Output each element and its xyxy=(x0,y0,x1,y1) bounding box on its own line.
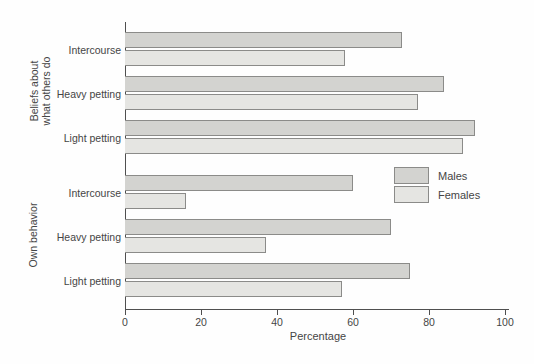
bar-males-beliefs-about-what-others-do-heavy-petting xyxy=(125,76,444,92)
category-label-beliefs-about-what-others-do-intercourse: Intercourse xyxy=(11,43,121,57)
x-tick-80 xyxy=(429,309,430,315)
bar-females-own-behavior-intercourse xyxy=(125,193,186,209)
legend-row-males: Males xyxy=(394,166,480,185)
x-tick-label-40: 40 xyxy=(257,316,297,328)
bar-males-own-behavior-heavy-petting xyxy=(125,219,391,235)
x-tick-label-100: 100 xyxy=(485,316,525,328)
x-tick-label-20: 20 xyxy=(181,316,221,328)
category-label-own-behavior-heavy-petting: Heavy petting xyxy=(11,230,121,244)
x-tick-0 xyxy=(125,309,126,315)
x-tick-40 xyxy=(277,309,278,315)
x-tick-20 xyxy=(201,309,202,315)
bar-females-beliefs-about-what-others-do-intercourse xyxy=(125,50,345,66)
x-tick-label-0: 0 xyxy=(105,316,145,328)
bar-males-beliefs-about-what-others-do-intercourse xyxy=(125,32,402,48)
bar-females-beliefs-about-what-others-do-light-petting xyxy=(125,138,463,154)
bar-males-own-behavior-light-petting xyxy=(125,263,410,279)
x-tick-100 xyxy=(505,309,506,315)
bar-females-own-behavior-light-petting xyxy=(125,281,342,297)
legend: Males Females xyxy=(394,166,480,204)
bar-males-beliefs-about-what-others-do-light-petting xyxy=(125,120,475,136)
category-label-beliefs-about-what-others-do-heavy-petting: Heavy petting xyxy=(11,87,121,101)
bar-males-own-behavior-intercourse xyxy=(125,175,353,191)
category-label-own-behavior-light-petting: Light petting xyxy=(11,274,121,288)
x-axis-title: Percentage xyxy=(238,330,398,342)
x-tick-label-80: 80 xyxy=(409,316,449,328)
legend-row-females: Females xyxy=(394,185,480,204)
legend-swatch-males xyxy=(394,167,429,184)
legend-label-males: Males xyxy=(438,170,467,182)
x-tick-60 xyxy=(353,309,354,315)
bar-females-beliefs-about-what-others-do-heavy-petting xyxy=(125,94,418,110)
x-tick-label-60: 60 xyxy=(333,316,373,328)
bar-females-own-behavior-heavy-petting xyxy=(125,237,266,253)
category-label-own-behavior-intercourse: Intercourse xyxy=(11,186,121,200)
category-label-beliefs-about-what-others-do-light-petting: Light petting xyxy=(11,131,121,145)
x-axis-line xyxy=(125,309,509,310)
bar-chart-figure: Beliefs about what others do Own behavio… xyxy=(0,0,534,364)
legend-swatch-females xyxy=(394,186,429,203)
legend-label-females: Females xyxy=(438,189,480,201)
